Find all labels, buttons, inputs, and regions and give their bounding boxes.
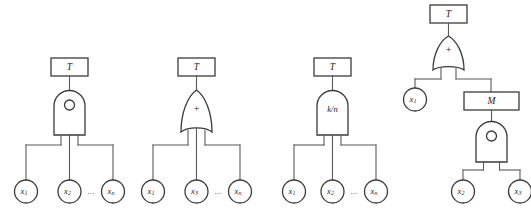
tree-4-leaf-2: x2 xyxy=(452,180,475,203)
tree-2-ellipsis: ... xyxy=(214,187,221,196)
tree-2-leaf-1: x1 xyxy=(142,180,165,203)
tree-3-ellipsis: ... xyxy=(350,187,357,196)
tree-3-gate-symbol: k/n xyxy=(327,104,337,114)
tree-2: T + x1 x3 ... xn xyxy=(142,58,252,203)
tree-2-gate: + xyxy=(181,90,212,132)
tree-2-leaf-3: xn xyxy=(229,180,252,203)
tree-2-leaf-3-sub: n xyxy=(238,190,241,196)
tree-4-leaf-2-sub: 2 xyxy=(461,190,464,196)
tree-3-leaf-2: x2 xyxy=(321,180,344,203)
tree-1-top-event-label: T xyxy=(67,62,73,72)
tree-4-intermediate-label: M xyxy=(487,96,497,106)
tree-3-leaf-2-sub: 2 xyxy=(331,190,334,196)
tree-1-leaf-2-sub: 2 xyxy=(68,190,71,196)
tree-1-leaf-3-sub: n xyxy=(111,190,114,196)
tree-4-leaf-3-sub: 3 xyxy=(517,190,521,196)
tree-4-leaf-1: x1 xyxy=(404,88,427,111)
tree-2-leaf-2: x3 xyxy=(185,180,208,203)
tree-3-leaf-3-sub: n xyxy=(374,190,377,196)
tree-1-leaf-3: xn xyxy=(102,180,125,203)
tree-1-leaf-1-sub: 1 xyxy=(24,190,27,196)
tree-1-ellipsis: ... xyxy=(87,187,94,196)
tree-1-leaf-2: x2 xyxy=(58,180,81,203)
tree-4-gate-symbol: + xyxy=(446,44,452,55)
tree-3-top-event-label: T xyxy=(330,62,336,72)
fault-tree-figure: T x1 x2 ... xn xyxy=(0,0,531,220)
tree-4-leaf-3: x3 xyxy=(509,180,531,203)
tree-3-gate: k/n xyxy=(317,90,348,135)
tree-4-intermediate-box: M xyxy=(464,92,519,110)
tree-1-gate xyxy=(54,90,85,135)
tree-1: T x1 x2 ... xn xyxy=(15,58,125,203)
tree-4: T + x1 M xyxy=(404,5,531,203)
tree-3-leaf-3: xn xyxy=(365,180,388,203)
tree-4-top-event-label: T xyxy=(446,9,452,19)
tree-1-leaf-1: x1 xyxy=(15,180,38,203)
tree-3-top-event-box: T xyxy=(314,58,351,76)
tree-3: T k/n x1 x2 ... xn xyxy=(283,58,388,203)
tree-2-top-event-label: T xyxy=(194,62,200,72)
tree-3-leaf-1-sub: 1 xyxy=(292,190,295,196)
tree-1-top-event-box: T xyxy=(51,58,88,76)
tree-4-leaf-1-sub: 1 xyxy=(413,98,416,104)
tree-4-gate: + xyxy=(433,36,464,70)
tree-2-leaf-1-sub: 1 xyxy=(151,190,154,196)
tree-3-leaf-1: x1 xyxy=(283,180,306,203)
tree-4-sub-gate xyxy=(476,122,507,162)
tree-2-gate-symbol: + xyxy=(194,103,200,114)
tree-4-top-event-box: T xyxy=(430,5,467,23)
tree-2-top-event-box: T xyxy=(178,58,215,76)
tree-2-leaf-2-sub: 3 xyxy=(194,190,198,196)
